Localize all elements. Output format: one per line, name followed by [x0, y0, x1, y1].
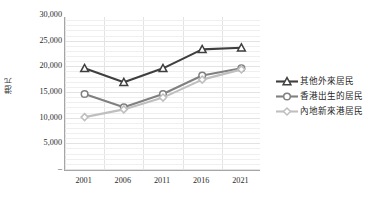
y-axis-tick-label: 25,000	[18, 37, 62, 45]
y-axis-tick-label: 30,000	[18, 11, 62, 19]
y-axis-tick-label: 10,000	[18, 114, 62, 122]
x-axis-tick-labels: 20012006201120162021	[64, 176, 260, 192]
legend-item-label: 內地新來港居民	[300, 106, 363, 117]
y-axis-tick-labels: –5,00010,00015,00020,00025,00030,000	[18, 15, 62, 171]
y-axis-tick-label: 5,000	[18, 139, 62, 147]
legend-item-label: 香港出生的居民	[300, 91, 363, 102]
x-axis-tick-label: 2011	[142, 176, 182, 185]
y-axis-title: 港元	[4, 78, 18, 94]
series-diamond	[81, 66, 245, 121]
chart-legend: 其他外來居民香港出生的居民內地新來港居民	[276, 74, 386, 119]
x-axis-tick-label: 2006	[103, 176, 143, 185]
x-axis-tick-label: 2016	[181, 176, 221, 185]
y-axis-tick-label: –	[18, 165, 62, 173]
line-chart: 港元 –5,00010,00015,00020,00025,00030,000 …	[0, 0, 388, 207]
y-axis-tick-label: 15,000	[18, 88, 62, 96]
x-axis-tick-label: 2001	[64, 176, 104, 185]
y-axis-tick-label: 20,000	[18, 62, 62, 70]
plot-area	[64, 17, 260, 171]
legend-item[interactable]: 香港出生的居民	[276, 89, 386, 104]
legend-item[interactable]: 內地新來港居民	[276, 104, 386, 119]
plot-series-svg	[65, 17, 261, 171]
legend-marker-triangle-icon	[276, 76, 298, 87]
legend-marker-circle-icon	[276, 91, 298, 102]
series-triangle	[81, 44, 246, 85]
legend-item[interactable]: 其他外來居民	[276, 74, 386, 89]
legend-item-label: 其他外來居民	[300, 76, 354, 87]
x-axis-tick-label: 2021	[220, 176, 260, 185]
legend-marker-diamond-icon	[276, 106, 298, 117]
